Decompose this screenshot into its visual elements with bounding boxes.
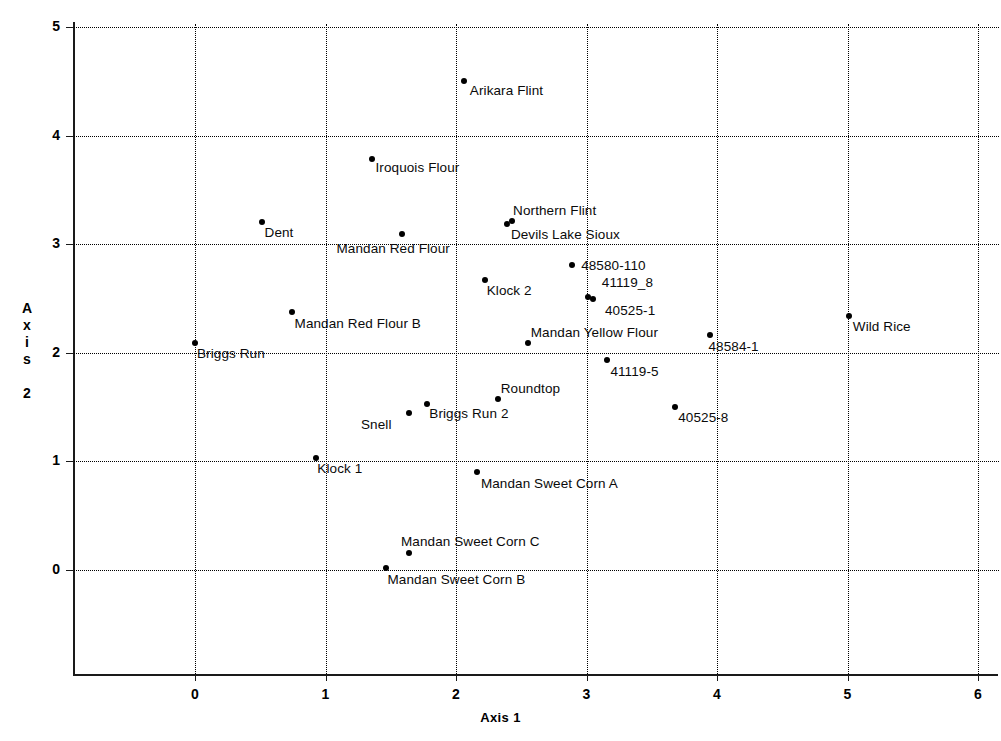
x-tick-label: 1 [306,686,346,702]
data-point-label: Briggs Run [197,346,265,361]
x-tick [717,674,718,681]
gridline-horizontal [74,461,999,462]
x-tick-label: 4 [697,686,737,702]
y-axis-title-char [16,368,38,385]
data-point[interactable] [495,396,501,402]
data-point-label: Iroquois Flour [375,160,459,175]
data-point[interactable] [406,550,412,556]
gridline-horizontal [74,136,999,137]
y-tick [66,27,74,28]
x-axis-title: Axis 1 [0,710,1001,725]
y-tick-label: 2 [36,344,60,360]
data-point-label: Northern Flint [513,203,596,218]
y-tick [66,353,74,354]
data-point-label: 41119-5 [610,364,658,379]
data-point-label: Mandan Sweet Corn C [401,534,539,549]
data-point-label: Snell [361,417,392,432]
data-point-label: Klock 1 [317,461,362,476]
data-point[interactable] [383,565,389,571]
x-tick [848,674,849,681]
y-tick [66,244,74,245]
data-point-label: Roundtop [501,381,560,396]
x-tick [587,674,588,681]
y-axis-title-char: A [16,300,38,317]
y-tick-label: 0 [36,561,60,577]
data-point[interactable] [504,221,510,227]
data-point-label: 40525-8 [678,410,728,425]
data-point[interactable] [406,410,412,416]
data-point[interactable] [289,309,295,315]
gridline-horizontal [74,27,999,28]
gridline-vertical [587,24,588,674]
y-tick-label: 4 [36,127,60,143]
y-axis-title-char: i [16,334,38,351]
data-point-label: Mandan Red Flour B [295,316,421,331]
gridline-vertical [195,24,196,674]
data-point[interactable] [590,296,596,302]
data-point[interactable] [569,262,575,268]
data-point[interactable] [474,469,480,475]
data-point[interactable] [399,231,405,237]
gridline-horizontal [74,570,999,571]
data-point-label: 48584-1 [708,339,758,354]
data-point-label: Mandan Red Flour [336,241,449,256]
x-tick [326,674,327,681]
gridline-vertical [848,24,849,674]
x-tick-label: 0 [175,686,215,702]
data-point-label: 40525-1 [605,303,655,318]
y-axis-title: Axis 2 [16,300,38,402]
data-point-label: 48580-110 [581,258,645,273]
y-tick-label: 1 [36,452,60,468]
gridline-vertical [978,24,979,674]
data-point[interactable] [461,78,467,84]
data-point[interactable] [525,340,531,346]
data-point-label: Klock 2 [487,283,532,298]
data-point[interactable] [509,218,515,224]
y-tick [66,461,74,462]
x-tick [195,674,196,681]
y-axis-title-char: x [16,317,38,334]
data-point-label: Devils Lake Sioux [511,227,620,242]
data-point-label: Wild Rice [853,319,911,334]
data-point-label: Mandan Sweet Corn B [388,572,526,587]
data-point-label: Arikara Flint [470,83,543,98]
gridline-vertical [326,24,327,674]
data-point-label: 41119_8 [602,275,653,290]
x-tick [978,674,979,681]
x-tick-label: 5 [828,686,868,702]
y-axis-title-char: 2 [16,385,38,402]
scatter-plot-page: 0123456 012345 Arikara FlintIroquois Flo… [0,0,1001,741]
data-point-label: Mandan Yellow Flour [531,325,658,340]
x-tick-label: 2 [436,686,476,702]
data-point-label: Mandan Sweet Corn A [481,476,618,491]
x-axis-line [73,674,998,676]
data-point-label: Dent [265,225,294,240]
y-axis-line [73,22,75,676]
data-point[interactable] [707,332,713,338]
y-axis-title-char: s [16,351,38,368]
x-tick [456,674,457,681]
x-tick-label: 3 [567,686,607,702]
data-point[interactable] [846,313,852,319]
y-tick-label: 5 [36,18,60,34]
x-tick-label: 6 [958,686,998,702]
gridline-horizontal [74,244,999,245]
y-tick [66,136,74,137]
data-point[interactable] [604,357,610,363]
y-tick [66,570,74,571]
y-tick-label: 3 [36,235,60,251]
data-point-label: Briggs Run 2 [429,406,508,421]
